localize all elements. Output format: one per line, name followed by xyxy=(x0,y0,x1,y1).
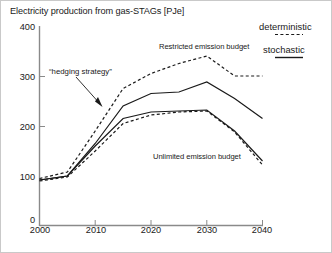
x-axis-ticks xyxy=(95,220,262,226)
series-restricted-deterministic xyxy=(40,56,263,179)
chart-figure: Electricity production from gas-STAGs [P… xyxy=(0,0,332,253)
series-unlimited-stochastic xyxy=(40,110,263,180)
axis-lines xyxy=(40,26,264,226)
chart-canvas xyxy=(1,1,332,253)
series-restricted-stochastic xyxy=(40,82,263,180)
hedging-strategy-arrow xyxy=(76,77,103,107)
y-axis-ticks xyxy=(40,77,46,127)
